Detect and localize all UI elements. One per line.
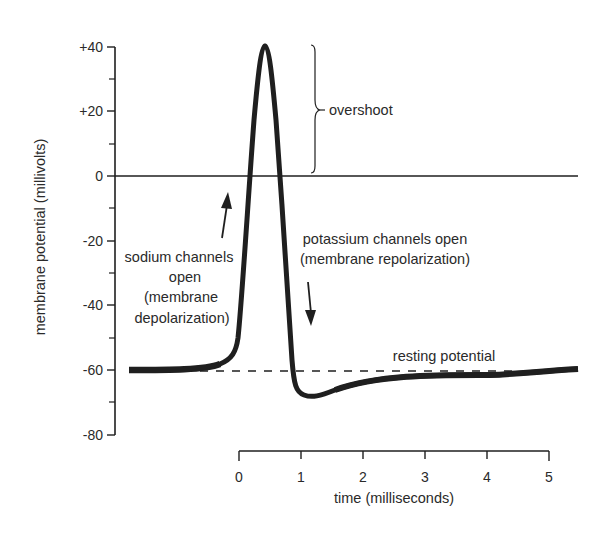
potassium-label-line: (membrane repolarization) [300, 251, 470, 267]
action-potential-curve [129, 46, 578, 396]
y-tick-label: +20 [79, 103, 103, 119]
y-tick-label: -20 [83, 233, 103, 249]
sodium-label-line: sodium channels [125, 249, 234, 265]
overshoot-brace [311, 45, 320, 173]
arrow-down-icon [305, 282, 316, 326]
y-axis-label: membrane potential (millivolts) [32, 139, 48, 336]
x-tick-label: 1 [297, 469, 305, 485]
x-axis-label: time (milliseconds) [334, 490, 454, 506]
y-tick-label: +40 [79, 39, 103, 55]
resting-segment-left [129, 364, 220, 370]
resting-segment-right [335, 369, 578, 390]
y-tick-label: -40 [83, 297, 103, 313]
x-tick-label: 0 [235, 469, 243, 485]
x-tick-label: 4 [483, 469, 491, 485]
x-tick-label: 3 [421, 469, 429, 485]
action-potential-figure: membrane potential (millivolts) +40 +20 … [0, 0, 606, 538]
sodium-label-line: open [169, 269, 201, 285]
y-tick-label: 0 [95, 168, 103, 184]
y-axis [107, 47, 115, 435]
arrow-up-icon [221, 192, 232, 238]
y-tick-labels: +40 +20 0 -20 -40 -60 -80 [79, 39, 103, 443]
potassium-label-line: potassium channels open [303, 231, 467, 247]
x-tick-label: 2 [359, 469, 367, 485]
x-axis [239, 451, 549, 461]
resting-potential-label: resting potential [393, 348, 495, 364]
sodium-annotation: sodium channels open (membrane depolariz… [125, 249, 234, 326]
sodium-label-line: depolarization) [134, 310, 229, 326]
sodium-label-line: (membrane [144, 289, 218, 305]
y-tick-label: -60 [83, 362, 103, 378]
y-tick-label: -80 [83, 427, 103, 443]
x-tick-label: 5 [545, 469, 553, 485]
potassium-annotation: potassium channels open (membrane repola… [300, 231, 470, 267]
overshoot-label: overshoot [329, 102, 393, 118]
x-tick-labels: 0 1 2 3 4 5 [235, 469, 553, 485]
